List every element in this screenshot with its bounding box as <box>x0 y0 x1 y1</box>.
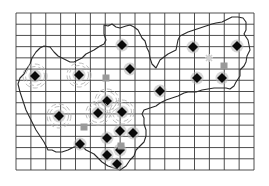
site-diamond-icon <box>111 158 124 171</box>
site-star-icon <box>205 54 213 62</box>
site-square-icon <box>81 124 88 131</box>
site-square-icon <box>103 75 110 82</box>
site-diamond-icon <box>101 149 114 162</box>
site-diamond-icon <box>74 138 87 151</box>
site-diamond-icon <box>154 85 167 98</box>
regional-grid-map <box>0 0 269 186</box>
site-diamond-icon <box>124 63 137 76</box>
site-diamond-icon <box>231 40 244 53</box>
site-diamond-icon <box>191 72 204 85</box>
site-diamond-icon <box>116 39 129 52</box>
site-diamond-icon <box>127 127 140 140</box>
site-diamond-icon <box>114 125 127 138</box>
site-square-icon <box>118 143 125 150</box>
site-square-icon <box>221 63 228 70</box>
site-diamond-icon <box>187 41 200 54</box>
site-diamond-icon <box>101 132 114 145</box>
site-diamond-icon <box>216 72 229 85</box>
